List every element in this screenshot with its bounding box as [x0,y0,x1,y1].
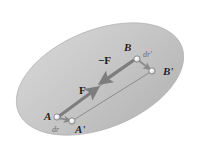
point-label-B: B [124,42,131,53]
node-dot-A [54,114,60,120]
displacement-label-dr-prime: dr' [143,51,152,59]
node-dot-B [134,56,140,62]
force-label-F: F [79,85,86,96]
rigid-body-region [0,1,200,158]
point-label-A: A [44,111,51,122]
node-dot-B-prime [149,68,155,74]
physics-figure: A A' B B' F −F dr dr' [0,0,205,166]
figure-canvas [0,0,205,166]
point-label-A-prime: A' [75,124,85,135]
point-label-B-prime: B' [163,66,173,77]
force-label-minus-F: −F [98,55,111,66]
displacement-label-dr: dr [52,126,59,134]
